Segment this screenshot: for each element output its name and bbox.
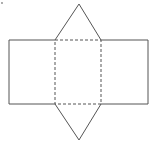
left-rectangle-face: [9, 40, 55, 104]
top-triangle-face: [55, 4, 101, 40]
prism-net-diagram: [0, 0, 152, 147]
bottom-triangle-face: [55, 104, 101, 140]
center-rectangle-face-fold-lines: [55, 40, 101, 104]
corner-dot-mark: [1, 2, 3, 4]
right-rectangle-face: [101, 40, 148, 104]
